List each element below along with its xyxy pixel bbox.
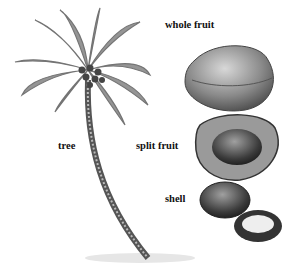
shell-drawing [200,182,250,218]
coconut-illustration [0,0,294,271]
label-split-fruit: split fruit [136,140,178,151]
label-tree: tree [58,140,75,151]
label-shell: shell [165,193,185,204]
split-fruit-drawing [196,115,278,180]
palm-trunk [88,80,148,258]
palm-fronds [15,8,150,125]
opened-shell-drawing [234,210,282,242]
label-whole-fruit: whole fruit [165,19,214,30]
whole-fruit-drawing [185,46,273,111]
ground-shadow [85,253,195,263]
